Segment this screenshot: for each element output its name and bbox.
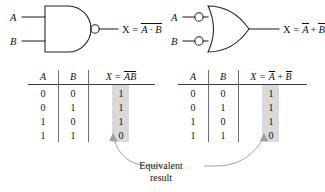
- caption-line-2: result: [139, 172, 182, 184]
- left-arrowhead: [109, 133, 117, 141]
- caption-line-1: Equivalent: [139, 160, 182, 172]
- equivalent-result-caption: Equivalent result: [139, 160, 182, 183]
- right-callout-curve: [215, 139, 263, 166]
- right-arrowhead: [260, 133, 268, 141]
